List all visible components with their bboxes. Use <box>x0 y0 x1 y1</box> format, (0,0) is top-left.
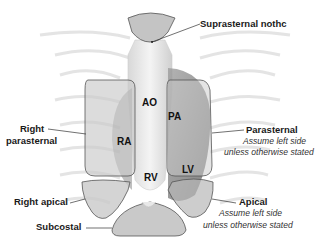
label-parasternal-note-line2: unless otherwise stated <box>224 148 314 158</box>
label-apical: Apical <box>239 197 268 208</box>
chamber-label-lv: LV <box>182 164 194 175</box>
label-suprasternal: Suprasternal nothc <box>200 19 287 30</box>
window-right-apical <box>82 180 130 218</box>
label-right-parasternal-line2: parasternal <box>6 136 57 147</box>
chamber-label-ra: RA <box>117 136 131 147</box>
label-apical-note-line2: unless otherwise stated <box>203 221 293 231</box>
chamber-label-pa: PA <box>168 111 181 122</box>
window-right-parasternal <box>85 80 135 176</box>
window-suprasternal <box>128 13 175 42</box>
label-subcostal: Subcostal <box>36 222 81 233</box>
chamber-label-ao: AO <box>142 97 157 108</box>
window-parasternal <box>167 80 212 176</box>
label-parasternal: Parasternal <box>246 125 298 136</box>
label-right-parasternal-line1: Right <box>20 124 44 135</box>
label-right-apical: Right apical <box>14 197 68 208</box>
label-apical-note-line1: Assume left side <box>219 209 282 219</box>
chamber-label-rv: RV <box>144 172 158 183</box>
label-parasternal-note-line1: Assume left side <box>243 137 306 147</box>
